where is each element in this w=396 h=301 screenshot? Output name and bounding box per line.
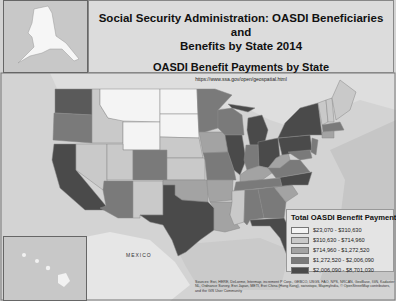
alaska-shape — [4, 1, 87, 72]
state-or — [53, 113, 92, 143]
legend-swatch — [291, 237, 309, 244]
legend-swatch — [291, 267, 309, 274]
legend: Total OASDI Benefit Payments $23,070 - $… — [286, 209, 394, 272]
state-co — [133, 150, 167, 180]
title-panel: Social Security Administration: OASDI Be… — [88, 0, 394, 73]
legend-item: $714,960 - $1,272,520 — [291, 245, 389, 255]
map-title-line2: Benefits by State 2014 — [89, 39, 393, 53]
legend-swatch — [291, 257, 309, 264]
state-ar — [207, 180, 233, 202]
legend-item: $23,070 - $310,630 — [291, 225, 389, 235]
legend-item: $2,006,090 - $8,701,030 — [291, 265, 389, 275]
hawaii-inset — [3, 236, 87, 301]
state-nm — [133, 181, 163, 218]
state-wy — [123, 122, 160, 150]
source-url: https://www.ssa.gov/open/geospatial.html — [89, 76, 393, 82]
legend-swatch — [291, 227, 309, 234]
legend-label: $714,960 - $1,272,520 — [313, 247, 369, 253]
map-attribution: Sources: Esri, HERE, DeLorme, Intermap, … — [195, 280, 395, 293]
state-ks — [167, 158, 205, 180]
country-label-mexico: MEXICO — [126, 252, 152, 258]
legend-label: $2,006,090 - $8,701,030 — [313, 267, 374, 273]
legend-label: $1,272,520 - $2,006,090 — [313, 257, 374, 263]
map-title: Social Security Administration: OASDI Be… — [89, 11, 393, 53]
state-wa — [55, 89, 92, 115]
state-in — [244, 145, 259, 170]
state-sd — [160, 114, 199, 138]
map-subtitle: OASDI Benefit Payments by State — [89, 61, 393, 73]
state-nd — [160, 89, 198, 114]
alaska-inset — [3, 0, 88, 73]
legend-item: $1,272,520 - $2,006,090 — [291, 255, 389, 265]
state-ia — [199, 132, 228, 153]
legend-item: $310,630 - $714,960 — [291, 235, 389, 245]
legend-label: $310,630 - $714,960 — [313, 237, 365, 243]
state-mt — [100, 89, 160, 122]
legend-title: Total OASDI Benefit Payments — [291, 213, 389, 222]
hawaii-shape — [4, 237, 86, 300]
legend-label: $23,070 - $310,630 — [313, 227, 362, 233]
state-ms — [230, 190, 245, 225]
map-title-line1: Social Security Administration: OASDI Be… — [89, 11, 393, 39]
state-ct — [322, 131, 334, 138]
legend-swatch — [291, 247, 309, 254]
